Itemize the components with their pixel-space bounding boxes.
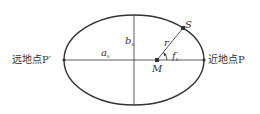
radius-line (157, 28, 183, 60)
satellite-symbol: S (185, 19, 192, 30)
focus-label: M (152, 64, 162, 74)
radius-label: r (164, 38, 169, 48)
radius-symbol: r (164, 37, 169, 48)
apogee-point (62, 58, 65, 61)
semi-major-subscript: s (107, 53, 110, 59)
satellite-label: S (185, 20, 192, 30)
semi-minor-label: bs (125, 36, 134, 47)
perigee-point (202, 58, 205, 61)
focus-point (155, 58, 159, 62)
semi-minor-subscript: s (131, 41, 134, 47)
semi-major-label: as (101, 48, 110, 59)
true-anomaly-label: fs (172, 51, 178, 62)
true-anomaly-subscript: s (176, 56, 179, 62)
focus-symbol: M (152, 63, 162, 74)
perigee-label: 近地点P (208, 55, 245, 65)
apogee-label: 远地点P′ (12, 55, 51, 65)
